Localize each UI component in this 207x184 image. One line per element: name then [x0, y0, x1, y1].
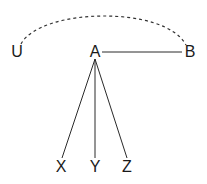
edge-u-b-dashed: [21, 16, 186, 45]
node-y: Y: [90, 158, 101, 175]
edge-a-z: [95, 59, 127, 158]
node-b: B: [185, 43, 196, 60]
causal-diagram: U A B X Y Z: [0, 0, 207, 184]
node-x: X: [56, 158, 67, 175]
node-u: U: [11, 43, 23, 60]
node-a: A: [90, 43, 101, 60]
edge-a-x: [62, 59, 95, 158]
node-z: Z: [122, 158, 132, 175]
